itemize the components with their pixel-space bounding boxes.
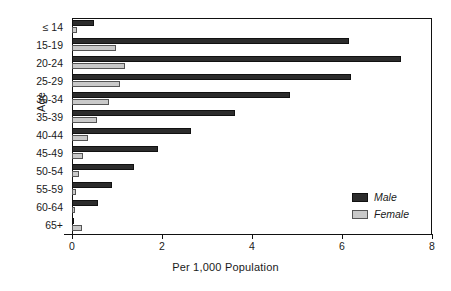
- bar-female: [72, 63, 125, 69]
- y-axis-tick-label: 25-29: [36, 72, 63, 90]
- bar-female: [72, 171, 79, 177]
- bar-female: [72, 27, 77, 33]
- x-axis-tick: [72, 234, 73, 239]
- y-axis-tick-label: ≤ 14: [43, 18, 63, 36]
- y-axis-tick-label: 20-24: [36, 54, 63, 72]
- bar-male: [72, 146, 158, 152]
- y-axis-tick-label: 35-39: [36, 108, 63, 126]
- bar-female: [72, 117, 97, 123]
- y-axis-tick-label: 40-44: [36, 126, 63, 144]
- bar-female: [72, 99, 109, 105]
- bar-male: [72, 92, 290, 98]
- bar-female: [72, 225, 82, 231]
- bar-male: [72, 20, 94, 26]
- legend-label: Male: [374, 191, 397, 203]
- bar-group: [72, 36, 432, 54]
- x-axis-tick: [162, 234, 163, 239]
- bar-female: [72, 189, 76, 195]
- x-axis-title: Per 1,000 Population: [0, 261, 451, 273]
- x-axis-left-stub: [64, 234, 72, 235]
- bar-male: [72, 74, 351, 80]
- legend-swatch-female: [352, 210, 368, 219]
- x-axis-tick-label: 6: [327, 240, 357, 252]
- bar-female: [72, 135, 88, 141]
- x-axis-tick: [252, 234, 253, 239]
- bar-female: [72, 207, 75, 213]
- x-axis-tick: [432, 234, 433, 239]
- y-axis-tick-label: 45-49: [36, 144, 63, 162]
- legend-item: Female: [352, 207, 434, 221]
- x-axis-tick-label: 4: [237, 240, 267, 252]
- bar-male: [72, 110, 235, 116]
- bar-male: [72, 218, 74, 224]
- bar-male: [72, 182, 112, 188]
- bar-group: [72, 18, 432, 36]
- bar-group: [72, 72, 432, 90]
- x-axis-tick: [342, 234, 343, 239]
- y-axis-tick-labels: ≤ 1415-1920-2425-2930-3435-3940-4445-495…: [0, 18, 68, 234]
- legend: MaleFemale: [352, 190, 434, 224]
- x-axis-tick-label: 2: [147, 240, 177, 252]
- bar-group: [72, 90, 432, 108]
- y-axis-tick-label: 60-64: [36, 198, 63, 216]
- bar-female: [72, 153, 83, 159]
- bar-male: [72, 128, 191, 134]
- bar-female: [72, 81, 120, 87]
- legend-label: Female: [374, 208, 409, 220]
- bar-male: [72, 56, 401, 62]
- y-axis-tick-label: 30-34: [36, 90, 63, 108]
- bar-group: [72, 108, 432, 126]
- bar-group: [72, 144, 432, 162]
- bar-female: [72, 45, 116, 51]
- y-axis-tick-label: 55-59: [36, 180, 63, 198]
- x-axis-tick-label: 8: [417, 240, 447, 252]
- x-axis-tick-label: 0: [57, 240, 87, 252]
- bar-group: [72, 162, 432, 180]
- bar-group: [72, 126, 432, 144]
- y-axis-tick-label: 50-54: [36, 162, 63, 180]
- y-axis-tick-label: 15-19: [36, 36, 63, 54]
- bar-male: [72, 164, 134, 170]
- chart-figure: Age ≤ 1415-1920-2425-2930-3435-3940-4445…: [0, 0, 451, 291]
- y-axis-tick-label: 65+: [45, 216, 63, 234]
- bar-male: [72, 38, 349, 44]
- bar-group: [72, 54, 432, 72]
- legend-swatch-male: [352, 193, 368, 202]
- bar-male: [72, 200, 98, 206]
- legend-item: Male: [352, 190, 434, 204]
